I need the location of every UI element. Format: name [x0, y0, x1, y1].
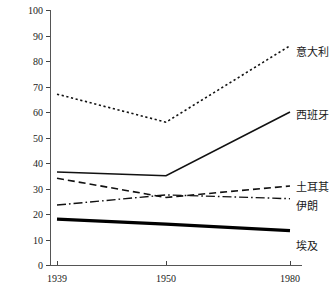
line-chart: 相对于西欧和美国的水平（%，经PPP调整） 010203040506070809… [0, 0, 333, 293]
series-line-0 [57, 46, 290, 123]
series-label-iran: 伊朗 [296, 197, 318, 213]
series-line-4 [57, 219, 290, 230]
plot-lines [0, 0, 333, 293]
series-label-italy: 意大利 [296, 43, 329, 59]
series-label-spain: 西班牙 [296, 106, 329, 122]
series-line-1 [57, 112, 290, 176]
series-label-turkey: 土耳其 [296, 178, 329, 194]
series-line-3 [57, 195, 290, 205]
series-label-egypt: 埃及 [296, 237, 318, 253]
